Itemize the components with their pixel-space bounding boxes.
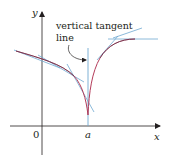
x-axis-label: x xyxy=(154,131,160,142)
point-a-label: a xyxy=(85,129,91,140)
vertical-tangent-diagram: y x 0 a vertical tangent line xyxy=(0,0,173,164)
annotation-text-line2: line xyxy=(56,32,74,43)
curve-left-branch xyxy=(16,51,88,115)
annotation-arrow xyxy=(68,45,86,60)
curve-right-branch xyxy=(88,39,135,115)
y-axis-label: y xyxy=(31,7,38,18)
curve-left-branch-dark xyxy=(16,51,74,76)
tangent-line-left-2 xyxy=(38,55,84,82)
annotation-text-line1: vertical tangent xyxy=(55,20,133,31)
tangent-line-right-1 xyxy=(97,36,118,60)
origin-label: 0 xyxy=(33,129,39,140)
tangent-line-left-3 xyxy=(67,64,94,112)
